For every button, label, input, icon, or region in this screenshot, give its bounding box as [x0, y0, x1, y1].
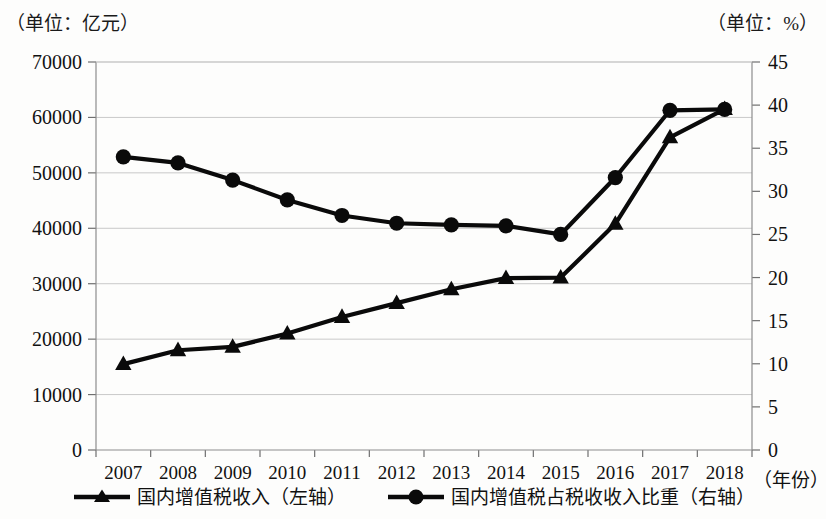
right-axis-tick-label: 25 [768, 223, 788, 245]
x-axis-tick-label: 2018 [706, 462, 744, 483]
left-axis-tick-label: 50000 [32, 162, 82, 184]
data-point-marker [116, 149, 131, 164]
data-point-marker [280, 192, 295, 207]
x-axis-tick-label: 2011 [323, 462, 360, 483]
left-axis-tick-labels: 010000200003000040000500006000070000 [32, 51, 82, 461]
left-axis-tick-label: 40000 [32, 217, 82, 239]
right-axis-tick-label: 15 [768, 310, 788, 332]
legend-label-left-series: 国内增值税收入（左轴） [137, 488, 346, 507]
x-axis-tick-label: 2010 [268, 462, 306, 483]
right-axis-tick-label: 35 [768, 137, 788, 159]
left-axis-tick-label: 70000 [32, 51, 82, 73]
x-axis-tick-label: 2008 [159, 462, 197, 483]
right-axis-tick-label: 0 [768, 439, 778, 461]
triangle-marker-icon [72, 487, 132, 507]
data-series-layer [115, 101, 733, 370]
data-point-marker [608, 170, 623, 185]
series-line-revenue [123, 109, 724, 364]
data-point-marker [389, 216, 404, 231]
data-point-marker [717, 102, 732, 117]
series-line-ratio [123, 109, 724, 234]
legend-label-right-series: 国内增值税占税收收入比重（右轴） [451, 488, 755, 507]
x-axis-tick-label: 2014 [487, 462, 526, 483]
legend-item-right-series[interactable]: 国内增值税占税收收入比重（右轴） [386, 487, 755, 507]
data-point-marker [662, 103, 677, 118]
data-point-marker [553, 227, 568, 242]
data-point-marker [170, 155, 185, 170]
x-axis-tick-labels: 2007200820092010201120122013201420152016… [104, 462, 743, 483]
right-axis-tick-label: 30 [768, 180, 788, 202]
x-axis-tick-label: 2007 [104, 462, 142, 483]
gridlines-group [96, 62, 752, 395]
chart-container: （单位：亿元） （单位：%） 0100002000030000400005000… [0, 0, 826, 519]
right-axis-tick-label: 45 [768, 51, 788, 73]
axis-lines-group [96, 62, 752, 450]
left-axis-tick-label: 10000 [32, 384, 82, 406]
data-point-marker [334, 208, 349, 223]
chart-legend: 国内增值税收入（左轴） 国内增值税占税收收入比重（右轴） [0, 487, 826, 507]
data-point-marker [225, 173, 240, 188]
x-axis-tick-label: 2015 [542, 462, 580, 483]
legend-item-left-series[interactable]: 国内增值税收入（左轴） [72, 487, 346, 507]
right-axis-tick-label: 10 [768, 353, 788, 375]
left-axis-tick-label: 0 [72, 439, 82, 461]
right-axis-tick-label: 40 [768, 94, 788, 116]
right-axis-tick-labels: 051015202530354045 [768, 51, 788, 461]
x-axis-tick-label: 2017 [651, 462, 689, 483]
data-point-marker [444, 217, 459, 232]
right-axis-tick-label: 20 [768, 267, 788, 289]
right-axis-tick-label: 5 [768, 396, 778, 418]
left-axis-tick-label: 20000 [32, 328, 82, 350]
x-axis-tick-label: 2016 [596, 462, 634, 483]
x-axis-tick-label: 2009 [214, 462, 252, 483]
left-axis-tick-label: 60000 [32, 106, 82, 128]
x-axis-tick-label: 2012 [378, 462, 416, 483]
chart-plot-area: 010000200003000040000500006000070000 051… [0, 0, 826, 519]
circle-marker-icon [386, 487, 446, 507]
x-axis-tick-label: 2013 [432, 462, 470, 483]
left-axis-tick-label: 30000 [32, 273, 82, 295]
data-point-marker [498, 218, 513, 233]
